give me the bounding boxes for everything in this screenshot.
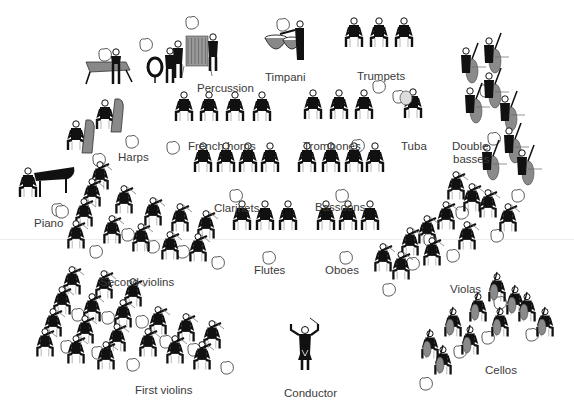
violin-player-icon: [54, 287, 74, 315]
label-percussion: Percussion: [197, 82, 254, 95]
label-line: Double: [452, 140, 489, 153]
wind-player-icon: [346, 18, 362, 47]
music-stand-icon: [230, 189, 243, 202]
violin-player-icon: [190, 234, 210, 262]
standing-player-icon: [208, 34, 218, 71]
violin-player-icon: [68, 336, 88, 364]
music-stand-icon: [167, 141, 180, 154]
violin-player-icon: [459, 222, 479, 250]
music-stand-icon: [491, 229, 504, 242]
orchestra-seating-diagram: PercussionTimpaniTrumpetsFrench hornsHar…: [0, 0, 574, 414]
music-stand-icon: [90, 245, 103, 258]
violin-player-icon: [68, 221, 88, 249]
violin-player-icon: [438, 202, 458, 230]
violin-player-icon: [37, 329, 57, 357]
violin-player-icon: [109, 324, 129, 352]
cello-player-icon: [462, 325, 477, 354]
label-trumpets: Trumpets: [357, 70, 405, 83]
label-oboes: Oboes: [325, 264, 359, 277]
music-stand-icon: [263, 251, 276, 264]
bass-player-icon: [500, 91, 525, 131]
music-stand-icon: [177, 245, 190, 258]
music-stand-icon: [383, 283, 396, 296]
wind-player-icon: [280, 201, 296, 230]
label-trombones: Trombones: [303, 140, 361, 153]
cello-player-icon: [422, 329, 437, 358]
music-stand-icon: [447, 249, 460, 262]
violin-player-icon: [375, 244, 395, 272]
label-first-violins: First violins: [135, 384, 193, 397]
harp-player-icon: [68, 120, 94, 153]
wind-player-icon: [257, 201, 273, 230]
cello-player-icon: [519, 292, 534, 321]
cello-player-icon: [445, 307, 460, 336]
chimes-player-icon: [182, 36, 212, 76]
violin-player-icon: [140, 329, 160, 357]
music-stand-icon: [277, 18, 290, 31]
wind-player-icon: [371, 18, 387, 47]
music-stand-icon: [126, 135, 139, 148]
music-stand-icon: [212, 256, 225, 269]
wind-player-icon: [201, 92, 217, 121]
music-stand-icon: [136, 315, 149, 328]
label-conductor: Conductor: [284, 387, 337, 400]
wind-player-icon: [305, 90, 321, 119]
label-line: basses: [452, 153, 489, 166]
violin-player-icon: [464, 184, 484, 212]
music-stand-icon: [99, 48, 112, 61]
wind-player-icon: [254, 92, 270, 121]
cello-player-icon: [537, 307, 552, 336]
wind-player-icon: [262, 143, 278, 172]
violin-player-icon: [172, 204, 192, 232]
wind-player-icon: [367, 143, 383, 172]
music-stand-icon: [127, 358, 140, 371]
music-stand-icon: [186, 16, 199, 29]
musician-figures-layer: [0, 0, 574, 414]
cello-player-icon: [470, 292, 485, 321]
music-stand-icon: [340, 251, 353, 264]
bass-player-icon: [484, 33, 509, 73]
violin-player-icon: [104, 216, 124, 244]
music-stand-icon: [140, 38, 153, 51]
label-violas: Violas: [450, 283, 481, 296]
harp-player-icon: [97, 99, 123, 132]
wind-player-icon: [227, 92, 243, 121]
label-harps: Harps: [118, 151, 149, 164]
bass-player-icon: [461, 43, 486, 83]
label-french-horns: French horns: [188, 140, 256, 153]
label-clarinets: Clarinets: [214, 202, 259, 215]
violin-player-icon: [145, 198, 165, 226]
label-double-basses: Doublebasses: [452, 140, 489, 166]
wind-player-icon: [331, 90, 347, 119]
tuba-player-icon: [400, 89, 421, 118]
piano-player-icon: [20, 167, 74, 197]
violin-player-icon: [115, 300, 135, 328]
label-piano: Piano: [34, 217, 63, 230]
music-stand-icon: [456, 206, 469, 219]
bassdrum-player-icon: [148, 48, 175, 83]
label-tuba: Tuba: [401, 140, 427, 153]
wind-player-icon: [176, 92, 192, 121]
conductor-player-icon: [291, 318, 318, 370]
wind-player-icon: [356, 90, 372, 119]
label-timpani: Timpani: [265, 71, 305, 84]
standing-player-icon: [173, 41, 183, 78]
violin-player-icon: [178, 314, 198, 342]
label-bassoons: Bassoons: [315, 201, 366, 214]
violin-player-icon: [98, 342, 118, 370]
label-flutes: Flutes: [254, 264, 285, 277]
violin-player-icon: [448, 172, 468, 200]
label-second-violins: Second violins: [100, 276, 174, 289]
cello-player-icon: [492, 307, 507, 336]
music-stand-icon: [221, 361, 234, 374]
violin-player-icon: [480, 190, 500, 218]
music-stand-icon: [420, 377, 433, 390]
music-stand-icon: [512, 189, 525, 202]
wind-player-icon: [396, 18, 412, 47]
violin-player-icon: [150, 307, 170, 335]
music-stand-icon: [102, 311, 115, 324]
label-cellos: Cellos: [485, 364, 517, 377]
bass-player-icon: [517, 145, 542, 185]
music-stand-icon: [122, 228, 135, 241]
violin-player-icon: [500, 204, 520, 232]
